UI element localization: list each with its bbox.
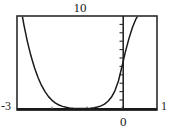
x-min-label: -3: [1, 100, 11, 112]
graph-figure: 10 -3 1 0: [0, 0, 172, 131]
frame-border: [17, 16, 157, 110]
x-max-label: 1: [161, 100, 167, 112]
plot-canvas: [0, 0, 172, 131]
plot-frame: [17, 16, 157, 110]
y-max-label: 10: [0, 1, 166, 14]
origin-label: 0: [120, 115, 127, 128]
